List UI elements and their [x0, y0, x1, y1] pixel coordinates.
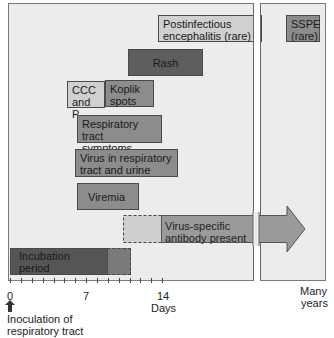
- inoculation-label: Inoculation of respiratory tract: [7, 313, 83, 337]
- inoc-label-1: Inoculation of: [7, 313, 83, 325]
- up-arrow-icon: [5, 300, 15, 312]
- antibody-arrow: [0, 0, 334, 338]
- tick-label-many: Many: [300, 285, 327, 297]
- inoc-label-2: respiratory tract: [7, 325, 83, 337]
- tick-label-years: years: [301, 297, 328, 309]
- axis-label-days: Days: [151, 302, 176, 314]
- tick-label-14: 14: [157, 290, 169, 302]
- incubation-extension: [107, 248, 131, 275]
- antibody-label: Virus-specific antibody present: [165, 220, 246, 244]
- incubation-label: Incubation period: [19, 250, 103, 274]
- incubation-period-bar: Incubation period: [10, 248, 108, 275]
- tick-label-7: 7: [83, 290, 89, 302]
- antibody-label-1: Virus-specific: [165, 220, 246, 232]
- antibody-label-2: antibody present: [165, 232, 246, 244]
